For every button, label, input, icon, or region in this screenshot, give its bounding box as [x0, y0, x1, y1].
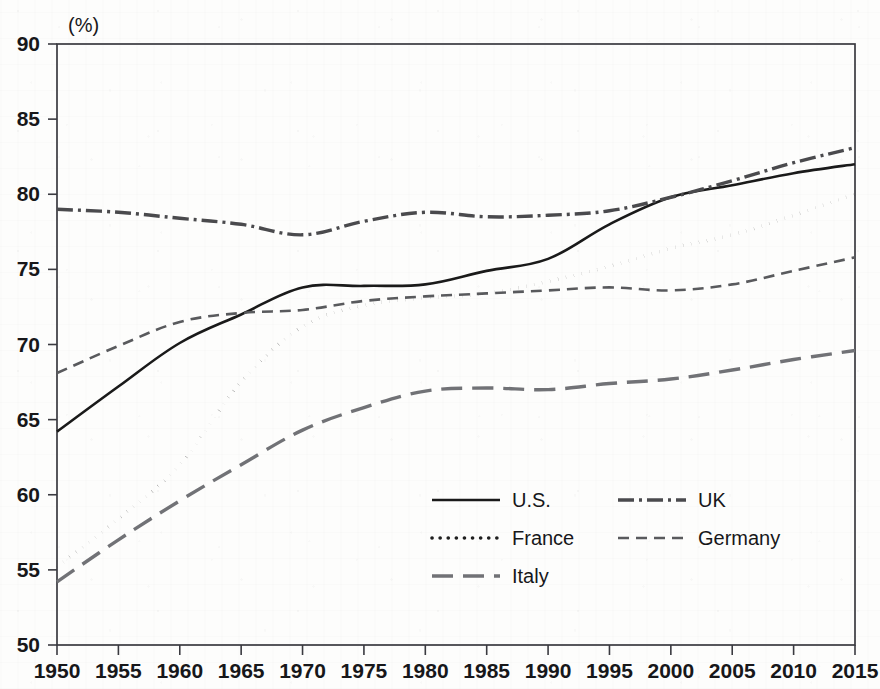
chart-legend: U.S.UKFranceGermanyItaly [432, 489, 780, 587]
y-axis-tick-label: 60 [17, 483, 40, 506]
data-series-group [57, 148, 855, 582]
x-axis-tick-label: 2010 [770, 659, 817, 682]
x-axis-tick-label: 1995 [586, 659, 633, 682]
y-axis-tick-group [48, 44, 57, 645]
y-axis-tick-label: 70 [17, 333, 40, 356]
y-axis-tick-label: 75 [17, 257, 41, 280]
y-axis-tick-label: 50 [17, 633, 40, 656]
x-axis-tick-label: 1955 [95, 659, 142, 682]
x-axis-tick-group [57, 645, 855, 655]
x-axis-tick-label: 2005 [709, 659, 756, 682]
legend-label-uk: UK [698, 489, 726, 511]
y-axis-unit-label: (%) [68, 14, 99, 36]
y-axis-tick-labels: 505560657075808590 [17, 32, 41, 656]
y-axis-tick-label: 80 [17, 182, 40, 205]
legend-label-us: U.S. [512, 489, 551, 511]
y-axis-tick-label: 55 [17, 558, 41, 581]
x-axis-tick-label: 1950 [34, 659, 81, 682]
x-axis-tick-label: 2000 [647, 659, 694, 682]
x-axis-tick-label: 1970 [279, 659, 326, 682]
x-axis-tick-label: 1980 [402, 659, 449, 682]
legend-label-germany: Germany [698, 527, 780, 549]
x-axis-tick-label: 1985 [463, 659, 510, 682]
series-line-france [57, 194, 855, 567]
x-axis-tick-labels: 1950195519601965197019751980198519901995… [34, 659, 879, 682]
line-chart-plot: (%) 505560657075808590 19501955196019651… [0, 0, 880, 689]
x-axis-tick-label: 2015 [832, 659, 879, 682]
series-line-us [57, 164, 855, 431]
series-line-uk [57, 148, 855, 235]
x-axis-tick-label: 1990 [525, 659, 572, 682]
y-axis-tick-label: 85 [17, 107, 41, 130]
legend-label-france: France [512, 527, 574, 549]
x-axis-tick-label: 1975 [341, 659, 388, 682]
y-axis-tick-label: 90 [17, 32, 40, 55]
y-axis-tick-label: 65 [17, 408, 41, 431]
series-line-germany [57, 257, 855, 373]
x-axis-tick-label: 1965 [218, 659, 265, 682]
legend-label-italy: Italy [512, 565, 549, 587]
x-axis-tick-label: 1960 [156, 659, 203, 682]
chart-figure: (%) 505560657075808590 19501955196019651… [0, 0, 880, 689]
